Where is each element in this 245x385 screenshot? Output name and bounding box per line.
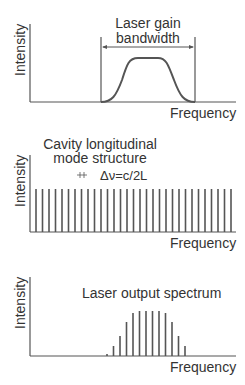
y-axis-label: Intensity bbox=[12, 155, 28, 207]
output-lines bbox=[107, 311, 185, 356]
x-axis-label: Frequency bbox=[170, 359, 236, 375]
x-axis-label: Frequency bbox=[170, 105, 236, 121]
arrow-head-left-icon bbox=[102, 45, 107, 49]
mode-spacing-label: Δν=c/2L bbox=[100, 168, 147, 183]
arrow-head-right-icon bbox=[189, 45, 194, 49]
gain-title-line1: Laser gain bbox=[115, 15, 180, 31]
laser-spectrum-diagram: Intensity Frequency Laser gain bandwidth… bbox=[0, 0, 245, 385]
y-axis-label: Intensity bbox=[12, 24, 28, 76]
output-title: Laser output spectrum bbox=[82, 285, 221, 301]
y-axis-label: Intensity bbox=[12, 277, 28, 329]
x-axis-label: Frequency bbox=[170, 235, 236, 251]
gain-title-line2: bandwidth bbox=[116, 30, 180, 46]
output-panel: Intensity Frequency Laser output spectru… bbox=[12, 277, 236, 375]
gain-panel: Intensity Frequency Laser gain bandwidth bbox=[12, 15, 236, 121]
gain-curve bbox=[101, 58, 195, 102]
modes-title-line2: mode structure bbox=[53, 150, 147, 166]
mode-spacing-marker bbox=[77, 172, 87, 178]
modes-panel: Intensity Frequency Cavity longitudinal … bbox=[12, 136, 236, 251]
mode-lines bbox=[36, 189, 231, 232]
